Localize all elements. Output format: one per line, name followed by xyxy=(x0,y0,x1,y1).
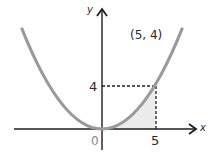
shaded-region xyxy=(102,86,156,129)
x-tick-label: 5 xyxy=(151,134,159,147)
y-axis-label: y xyxy=(87,5,93,15)
point-label: (5, 4) xyxy=(130,29,162,41)
graph-canvas xyxy=(0,0,217,163)
y-tick-label: 4 xyxy=(89,80,97,93)
origin-label: 0 xyxy=(91,135,99,147)
x-axis-label: x xyxy=(200,123,206,133)
